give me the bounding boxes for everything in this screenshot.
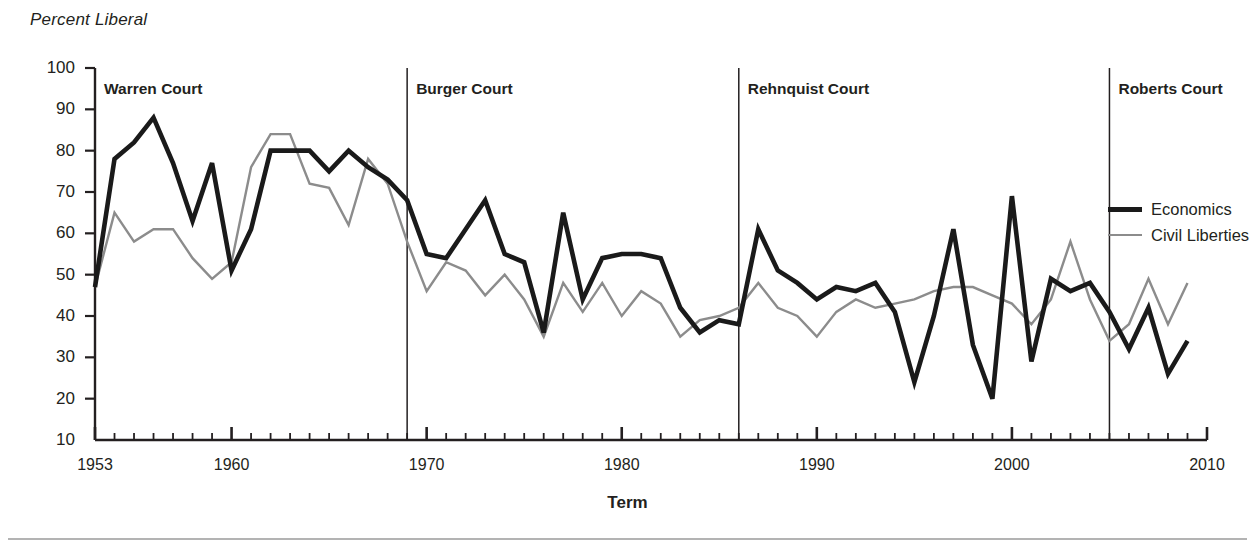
y-axis-tick-label: 90 [29,100,75,117]
x-axis-tick-label: 1970 [392,457,462,473]
x-axis-title: Term [0,493,1255,513]
chart-legend: Economics Civil Liberties [1108,196,1249,248]
y-axis-tick-label: 30 [29,348,75,365]
legend-swatch-economics-icon [1108,207,1142,212]
y-axis-tick-label: 10 [29,431,75,448]
y-axis-tick-label: 60 [29,224,75,241]
x-axis-tick-label: 1980 [587,457,657,473]
x-axis-tick-label: 1960 [197,457,267,473]
legend-label-economics: Economics [1151,200,1232,219]
court-era-label: Rehnquist Court [748,80,869,98]
chart-figure: Percent Liberal Term Economics Civil Lib… [0,0,1255,554]
y-axis-tick-label: 20 [29,390,75,407]
y-axis-tick-label: 50 [29,266,75,283]
y-axis-tick-label: 70 [29,183,75,200]
court-era-label: Roberts Court [1118,80,1222,98]
court-era-label: Burger Court [416,80,512,98]
y-axis-tick-label: 80 [29,142,75,159]
court-era-label: Warren Court [104,80,202,98]
legend-item-economics: Economics [1108,196,1249,222]
x-axis-tick-label: 1953 [60,457,130,473]
legend-label-civil-liberties: Civil Liberties [1151,226,1249,245]
x-axis-tick-label: 2000 [977,457,1047,473]
footer-divider [8,538,1247,540]
y-axis-tick-label: 100 [29,59,75,76]
legend-item-civil-liberties: Civil Liberties [1108,222,1249,248]
x-axis-tick-label: 1990 [782,457,852,473]
legend-swatch-civil-liberties-icon [1108,234,1142,237]
x-axis-tick-label: 2010 [1172,457,1242,473]
y-axis-tick-label: 40 [29,307,75,324]
